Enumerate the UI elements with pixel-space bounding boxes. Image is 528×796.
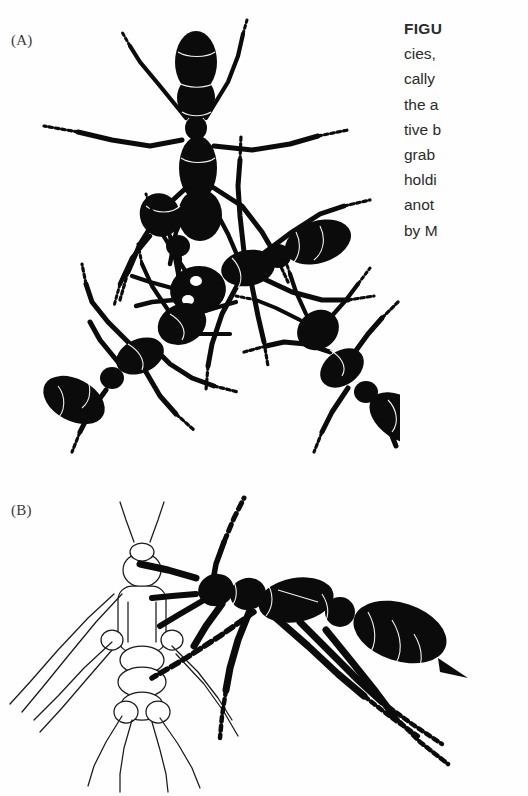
caption-line-6: holdi [404,167,528,192]
ant-lower-right [236,256,400,454]
caption-line-5: grab [404,142,528,167]
caption-line-4: tive b [404,117,528,142]
caption-line-0: FIGU [404,16,528,41]
figure-page: (A) [0,0,528,796]
caption-line-8: by M [404,218,528,243]
caption-line-2: cally [404,66,528,91]
caption-line-1: cies, [404,41,528,66]
figure-caption-column: FIGU cies, cally the a tive b grab holdi… [404,16,528,243]
caption-line-7: anot [404,192,528,217]
caption-line-3: the a [404,92,528,117]
panel-a-illustration [0,0,400,470]
ant-grabbing-prey [140,498,468,764]
panel-b-illustration [0,490,528,796]
